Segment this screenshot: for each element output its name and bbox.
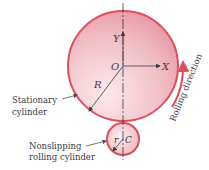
stationary-leader [62,95,77,99]
stationary-callout-line1: Stationary [12,95,57,105]
x-axis-label: X [161,61,170,72]
radius-R-label: R [93,79,102,90]
rolling-callout-line1: Nonslipping [29,141,82,151]
stationary-callout-line2: cylinder [12,107,48,117]
radius-r-label: r [114,135,119,145]
cylinder-diagram: Y X O R r C Stationary cylinder Nonslipp… [0,0,209,170]
center-C-label: C [125,135,132,145]
rolling-leader [86,141,106,146]
rolling-callout-line2: rolling cylinder [29,152,96,162]
origin-label: O [111,61,119,72]
